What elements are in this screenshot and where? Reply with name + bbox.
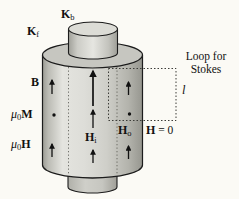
vector-symbol: M [21, 107, 32, 121]
vector-symbol: H [85, 130, 94, 144]
subscript: i [94, 135, 96, 145]
caption-line-2: Stokes [176, 63, 236, 76]
label-B: B [31, 76, 39, 88]
vector-symbol: K [61, 7, 70, 21]
inner-cylinder-top-face [69, 22, 118, 36]
label-Kb: Kb [61, 8, 75, 22]
label-H-equals-zero: H = 0 [146, 124, 173, 137]
subscript: o [127, 128, 131, 138]
vector-symbol: H [21, 137, 30, 151]
vector-symbol: K [27, 24, 36, 38]
magnetized-cylinder-figure: Kb Kf B μ0M μ0H Hi Ho H = 0 Loop for Sto… [0, 0, 239, 199]
vector-symbol: B [31, 75, 39, 89]
loop-dot-icon [128, 112, 131, 115]
equation-text: = 0 [155, 124, 173, 136]
vector-symbol: H [146, 123, 155, 137]
label-loop-length: l [182, 84, 185, 97]
subscript: b [70, 12, 74, 22]
label-Hi: Hi [85, 131, 97, 145]
vector-symbol: H [118, 123, 127, 137]
label-Ho: Ho [118, 124, 132, 138]
m-dot-icon [52, 113, 55, 116]
label-mu0H: μ0H [11, 138, 31, 152]
caption-line-1: Loop for [176, 50, 236, 63]
subscript: f [36, 29, 39, 39]
label-Kf: Kf [27, 25, 39, 39]
stokes-loop-caption: Loop for Stokes [176, 50, 236, 75]
label-mu0M: μ0M [11, 108, 33, 122]
